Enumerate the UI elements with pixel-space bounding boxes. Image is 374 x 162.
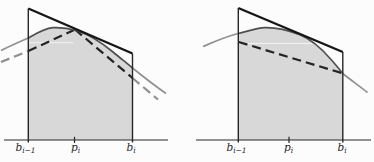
dashed-chord-line: [133, 78, 159, 100]
label-p-i: pi: [71, 141, 81, 156]
figure-canvas: bi−1pibibi−1pibi: [0, 0, 374, 162]
function-curve: [343, 74, 368, 93]
label-b-i-minus-1: bi−1: [15, 141, 35, 156]
label-b-i-minus-1: bi−1: [226, 141, 246, 156]
left-panel: bi−1pibi: [1, 9, 168, 156]
function-curve: [1, 38, 28, 51]
label-b-i: bi: [126, 141, 136, 156]
right-panel: bi−1pibi: [196, 8, 371, 155]
tangent-chord-diagram: bi−1pibibi−1pibi: [0, 0, 374, 162]
function-curve: [133, 68, 167, 94]
function-curve: [203, 34, 238, 47]
dashed-chord-line: [1, 51, 28, 62]
label-p-i: pi: [284, 141, 294, 156]
label-b-i: bi: [337, 141, 347, 156]
